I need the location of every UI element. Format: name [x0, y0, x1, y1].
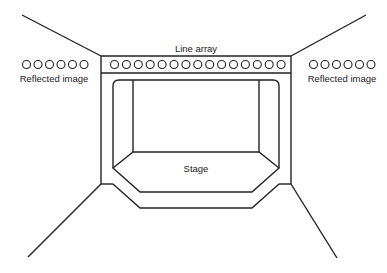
speaker-icon: [23, 61, 31, 69]
speaker-icon: [277, 61, 285, 69]
speaker-icon: [310, 61, 318, 69]
speaker-icon: [146, 61, 154, 69]
speaker-icon: [356, 61, 364, 69]
speaker-icon: [194, 61, 202, 69]
line-array-speakers: [111, 61, 286, 69]
upper-right-wall: [291, 15, 366, 56]
speaker-icon: [46, 61, 54, 69]
speaker-icon: [122, 61, 130, 69]
reflected-right-label: Reflected image: [308, 73, 377, 84]
stage-apron: [113, 184, 279, 208]
stage-label: Stage: [184, 163, 209, 174]
speaker-icon: [182, 61, 190, 69]
speaker-icon: [241, 61, 249, 69]
speaker-icon: [69, 61, 77, 69]
speaker-icon: [333, 61, 341, 69]
speaker-icon: [253, 61, 261, 69]
speaker-icon: [265, 61, 273, 69]
lower-right-wall: [291, 184, 337, 258]
line-array-label: Line array: [175, 43, 217, 54]
speaker-icon: [158, 61, 166, 69]
reflected-left-label: Reflected image: [20, 73, 89, 84]
speaker-icon: [206, 61, 214, 69]
upper-left-wall: [22, 15, 101, 56]
speaker-icon: [230, 61, 238, 69]
speaker-icon: [57, 61, 65, 69]
speaker-icon: [80, 61, 88, 69]
speaker-icon: [218, 61, 226, 69]
speaker-icon: [34, 61, 42, 69]
speaker-icon: [367, 61, 375, 69]
reflected-left-speakers: [23, 61, 89, 69]
speaker-icon: [111, 61, 119, 69]
speaker-icon: [321, 61, 329, 69]
venue-diagram: Line array Stage Reflected image Reflect…: [0, 0, 387, 273]
speaker-icon: [344, 61, 352, 69]
speaker-icon: [134, 61, 142, 69]
lower-left-wall: [28, 184, 101, 257]
reflected-right-speakers: [310, 61, 376, 69]
speaker-icon: [170, 61, 178, 69]
inner-frame: [113, 80, 279, 168]
